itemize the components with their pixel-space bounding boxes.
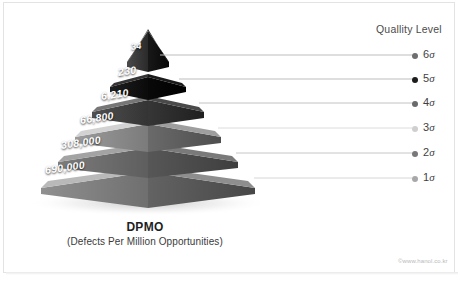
chart-caption-title: DPMO — [0, 220, 290, 234]
legend-dot-2-sigma — [412, 151, 418, 157]
chart-caption-subtitle: (Defects Per Million Opportunities) — [0, 236, 290, 247]
figure-canvas: 34 230 6,210 66,800 308,000 690,000 Qual… — [0, 0, 461, 282]
legend-label-2-sigma: 2σ — [423, 146, 435, 158]
legend-dot-3-sigma — [412, 126, 418, 132]
legend-label-3-sigma: 3σ — [423, 121, 435, 133]
legend-label-1-sigma: 1σ — [423, 171, 435, 183]
legend-label-6-sigma: 6σ — [423, 48, 435, 60]
legend-title: Quallity Level — [376, 23, 442, 35]
watermark: ©www.hanol.co.kr — [398, 258, 448, 264]
legend-dot-5-sigma — [412, 77, 418, 83]
legend-label-4-sigma: 4σ — [423, 96, 435, 108]
legend-dot-4-sigma — [412, 101, 418, 107]
legend-dot-1-sigma — [412, 176, 418, 182]
legend-dot-6-sigma — [412, 53, 418, 59]
legend-label-5-sigma: 5σ — [423, 72, 435, 84]
